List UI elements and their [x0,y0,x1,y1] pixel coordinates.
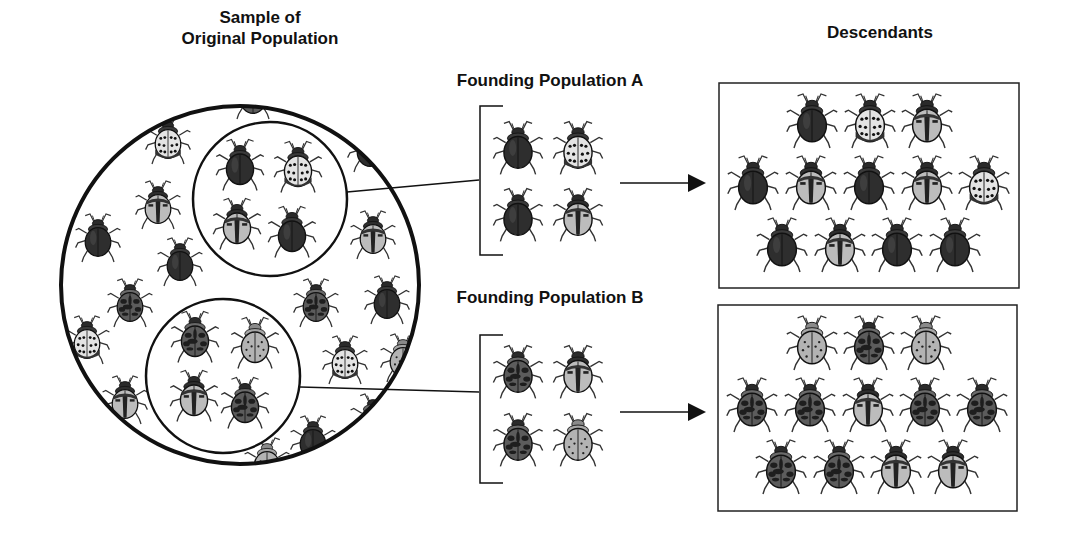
beetle-mottled-icon [294,279,339,327]
beetle-stripe-icon [815,218,865,272]
beetle-dark-icon [76,214,121,262]
beetle-whitespot-icon [845,94,895,148]
beetle-lightspot-icon [901,316,951,370]
beetle-stripe-icon [843,378,893,432]
beetle-mottled-icon [844,316,894,370]
beetle-dark-icon [728,156,778,210]
beetle-dark-icon [844,156,894,210]
beetle-stripe-icon [136,181,181,229]
beetle-stripe-icon [902,156,952,210]
beetle-dark-icon [493,189,542,242]
beetle-mottled-icon [231,71,276,119]
beetle-mottled-icon [108,279,153,327]
beetle-dark-icon [757,218,807,272]
beetle-whitespot-icon [959,156,1009,210]
beetle-mottled-icon [727,378,777,432]
beetle-dark-icon [158,238,203,286]
beetle-stripe-icon [786,156,836,210]
founding-a-beetles [493,122,602,242]
beetle-stripe-icon [103,376,148,424]
beetle-dark-icon [930,218,980,272]
beetle-stripe-icon [871,440,921,494]
descendants-a-beetles [728,94,1009,272]
connector-a [347,180,479,192]
beetle-mottled-icon [493,346,542,399]
beetle-mottled-icon [814,440,864,494]
beetle-whitespot-icon [553,122,602,175]
beetle-mottled-icon [900,378,950,432]
beetle-dark-icon [872,218,922,272]
arrowhead-b-icon [688,403,706,421]
beetle-mottled-icon [493,414,542,467]
beetle-mottled-icon [957,378,1007,432]
sample-a-circle [193,122,347,276]
beetle-stripe-icon [928,440,978,494]
beetle-lightspot-icon [787,316,837,370]
beetle-lightspot-icon [553,414,602,467]
beetle-dark-icon [365,276,410,324]
bracket-a [480,106,503,255]
beetle-mottled-icon [756,440,806,494]
connector-b [300,387,479,392]
beetle-dark-icon [493,122,542,175]
arrowhead-a-icon [688,174,706,192]
bracket-b [480,335,503,483]
sample-b-circle [146,299,300,453]
founding-b-beetles [493,346,602,467]
beetle-stripe-icon [553,346,602,399]
beetle-stripe-icon [553,189,602,242]
beetle-stripe-icon [351,211,396,259]
beetle-mottled-icon [785,378,835,432]
beetle-whitespot-icon [323,336,368,384]
population-diagram [0,0,1073,542]
descendants-b-beetles [727,316,1007,494]
beetle-dark-icon [787,94,837,148]
beetle-stripe-icon [902,94,952,148]
